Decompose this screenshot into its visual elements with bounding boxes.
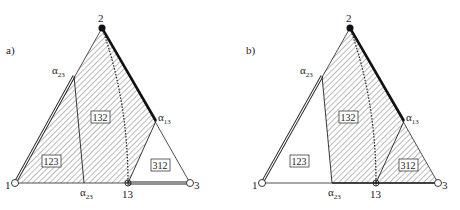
vertex-1-label: 1 [252,179,258,191]
region-132-label: 132 [93,112,108,123]
alpha23-lower-label: α23 [80,186,93,201]
vertex-3-marker [435,180,442,187]
panel-label: b) [246,44,256,57]
region-312-label: 312 [401,160,416,171]
vertex-2-marker [99,25,106,32]
alpha23-upper-label: α23 [52,64,65,79]
point-13-label: 13 [122,188,134,200]
vertex-3-marker [187,180,194,187]
panel-label: a) [6,44,15,57]
region-312-label: 312 [153,160,168,171]
alpha23-lower-label: α23 [328,186,341,201]
vertex-3-label: 3 [442,179,448,191]
point-13-label: 13 [370,188,382,200]
alpha13-label: α13 [406,111,419,126]
simplex-diagram: a) 2 1 3 13 α23 α23 α13 [0,0,460,210]
vertex-2-label: 2 [98,12,104,24]
panel-b: b) 2 1 3 13 α23 α23 α13 123 132 312 [246,12,448,201]
hatched-region [322,28,438,183]
vertex-1-label: 1 [5,179,11,191]
vertex-1-marker [12,180,19,187]
alpha13-label: α13 [158,111,171,126]
vertex-2-marker [347,25,354,32]
region-132-label: 132 [341,112,356,123]
alpha23-upper-label: α23 [300,64,313,79]
hatched-region [15,28,156,183]
vertex-3-label: 3 [194,179,200,191]
region-123-label: 123 [44,156,59,167]
vertex-1-marker [259,180,266,187]
vertex-2-label: 2 [346,12,352,24]
panel-a: a) 2 1 3 13 α23 α23 α13 [5,12,200,201]
region-123-label: 123 [292,156,307,167]
